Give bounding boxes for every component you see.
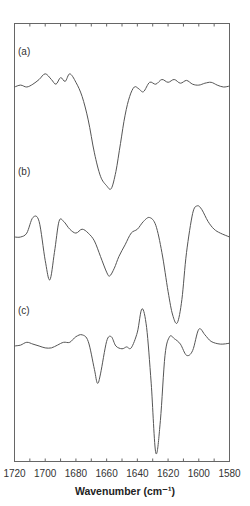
spectrum-trace-b xyxy=(15,206,230,324)
x-tick-label: 1640 xyxy=(126,468,149,479)
ftir-spectra-chart: 1720 1700 1680 1660 1640 1620 1600 1580 … xyxy=(0,0,250,506)
x-axis-title: Wavenumber (cm⁻¹) xyxy=(75,485,175,497)
x-axis-ticks xyxy=(15,24,230,462)
x-tick-label: 1700 xyxy=(34,468,57,479)
x-axis-tick-labels: 1720 1700 1680 1660 1640 1620 1600 1580 xyxy=(3,468,241,479)
x-tick-label: 1620 xyxy=(157,468,180,479)
plot-frame xyxy=(15,24,230,462)
trace-label-a: (a) xyxy=(18,46,30,57)
trace-label-c: (c) xyxy=(18,305,30,316)
spectrum-trace-c xyxy=(15,309,230,454)
spectrum-trace-a xyxy=(15,74,230,190)
x-tick-label: 1600 xyxy=(188,468,211,479)
x-tick-label: 1720 xyxy=(3,468,26,479)
x-tick-label: 1580 xyxy=(218,468,241,479)
trace-label-b: (b) xyxy=(18,166,30,177)
x-tick-label: 1660 xyxy=(95,468,118,479)
x-tick-label: 1680 xyxy=(65,468,88,479)
